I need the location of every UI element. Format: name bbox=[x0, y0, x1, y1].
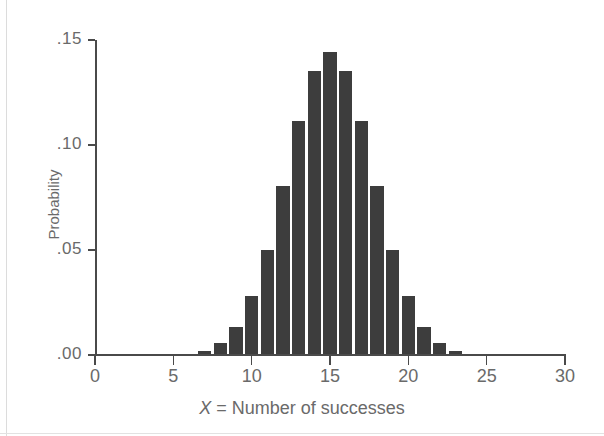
x-tick-mark bbox=[173, 356, 175, 365]
y-tick-mark bbox=[88, 144, 95, 146]
histogram-bar bbox=[291, 121, 307, 355]
x-axis-label: X = Number of successes bbox=[0, 398, 604, 419]
x-axis-label-rest: = Number of successes bbox=[211, 398, 405, 418]
histogram-bar bbox=[401, 296, 417, 355]
x-tick-mark bbox=[329, 356, 331, 365]
x-tick-label: 30 bbox=[545, 366, 585, 387]
x-tick-label: 15 bbox=[310, 366, 350, 387]
figure-container: .00.05.10.15 051015202530 Probability X … bbox=[0, 0, 604, 436]
histogram-bar bbox=[307, 71, 323, 355]
x-tick-mark bbox=[486, 356, 488, 365]
x-tick-mark bbox=[94, 356, 96, 365]
x-tick-label: 5 bbox=[153, 366, 193, 387]
histogram-bar bbox=[275, 186, 291, 355]
histogram-bar bbox=[228, 327, 244, 355]
y-axis-label: Probability bbox=[45, 130, 62, 280]
histogram-bar bbox=[244, 296, 260, 355]
histogram-bar bbox=[385, 250, 401, 355]
histogram-bar bbox=[369, 186, 385, 355]
x-tick-mark bbox=[251, 356, 253, 365]
y-axis-line bbox=[95, 40, 97, 356]
x-tick-mark bbox=[564, 356, 566, 365]
y-tick-label: .00 bbox=[36, 344, 82, 364]
x-tick-mark bbox=[408, 356, 410, 365]
x-tick-label: 10 bbox=[232, 366, 272, 387]
x-tick-label: 0 bbox=[75, 366, 115, 387]
y-tick-mark bbox=[88, 249, 95, 251]
histogram-bar bbox=[322, 52, 338, 355]
histogram-plot: .00.05.10.15 051015202530 Probability X … bbox=[0, 0, 604, 436]
y-tick-label: .15 bbox=[36, 29, 82, 49]
histogram-bar bbox=[338, 71, 354, 355]
histogram-bar bbox=[260, 250, 276, 355]
x-tick-label: 25 bbox=[467, 366, 507, 387]
x-axis-label-variable: X bbox=[199, 398, 211, 418]
x-tick-label: 20 bbox=[388, 366, 428, 387]
y-tick-mark bbox=[88, 39, 95, 41]
histogram-bar bbox=[416, 327, 432, 355]
histogram-bar bbox=[354, 121, 370, 355]
